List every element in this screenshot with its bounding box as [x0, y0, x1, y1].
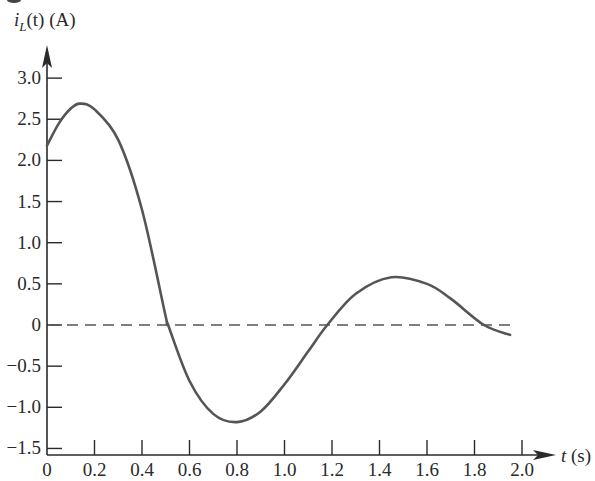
x-tick-label: 0.8 — [225, 459, 249, 480]
y-tick-label: 1.0 — [17, 232, 41, 253]
x-tick-label: 1.6 — [415, 459, 439, 480]
cropped-figure-label-fragment — [7, 0, 21, 3]
y-tick-label: −1.5 — [7, 437, 41, 458]
y-tick-label: 0 — [32, 314, 42, 335]
x-tick-label: 1.2 — [320, 459, 344, 480]
y-tick-label: 0.5 — [17, 273, 41, 294]
y-tick-label: 1.5 — [17, 191, 41, 212]
x-tick-label: 1.4 — [368, 459, 392, 480]
x-tick-label: 0.2 — [83, 459, 107, 480]
x-tick-label: 0 — [42, 459, 52, 480]
x-tick-label: 0.6 — [178, 459, 202, 480]
axes — [42, 45, 556, 460]
y-axis-title-sub: L — [18, 19, 26, 34]
y-axis-title-rest: (t) (A) — [27, 9, 76, 31]
x-axis-ticks: 00.20.40.60.81.01.21.41.61.82.0 — [42, 440, 534, 480]
y-tick-label: 2.5 — [17, 108, 41, 129]
y-tick-label: 3.0 — [17, 67, 41, 88]
inductor-current-curve — [47, 104, 510, 423]
x-axis-title: t (s) — [561, 445, 591, 467]
x-tick-label: 0.4 — [130, 459, 154, 480]
x-axis-title-rest: (s) — [566, 445, 591, 467]
y-axis-ticks: 3.02.52.01.51.00.50−0.5−1.0−1.5 — [7, 67, 62, 458]
x-tick-label: 1.8 — [463, 459, 487, 480]
x-tick-label: 1.0 — [273, 459, 297, 480]
y-tick-label: −1.0 — [7, 396, 41, 417]
y-tick-label: −0.5 — [7, 355, 41, 376]
x-tick-label: 2.0 — [510, 459, 534, 480]
y-tick-label: 2.0 — [17, 149, 41, 170]
y-axis-title: iL(t) (A) — [14, 9, 76, 34]
chart-canvas: iL(t) (A) t (s) 3.02.52.01.51.00.50−0.5−… — [0, 0, 595, 481]
